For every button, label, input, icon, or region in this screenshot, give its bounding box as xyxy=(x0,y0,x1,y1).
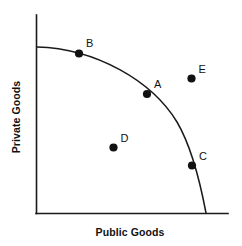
data-point-label-d: D xyxy=(121,132,129,144)
data-point-label-a: A xyxy=(154,78,162,90)
data-point-label-e: E xyxy=(199,63,206,75)
data-point-e[interactable] xyxy=(187,74,195,82)
data-point-c[interactable] xyxy=(188,161,196,169)
data-point-label-c: C xyxy=(199,150,207,162)
x-axis-title: Public Goods xyxy=(96,226,165,238)
data-point-b[interactable] xyxy=(75,49,83,57)
ppf-chart: B A C D E Public Goods Private Goods xyxy=(0,0,242,246)
chart-canvas: B A C D E Public Goods Private Goods xyxy=(0,0,242,246)
data-point-d[interactable] xyxy=(109,143,117,151)
y-axis-title: Private Goods xyxy=(10,81,22,154)
data-point-label-b: B xyxy=(86,37,93,49)
data-point-a[interactable] xyxy=(143,90,151,98)
